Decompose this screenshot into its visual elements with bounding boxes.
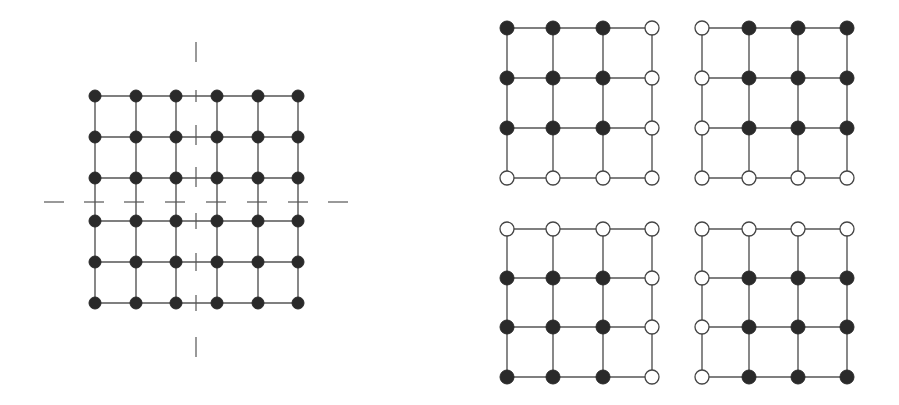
lattice-site-filled xyxy=(170,297,182,309)
lattice-site-open xyxy=(791,171,805,185)
lattice-site-open xyxy=(645,71,659,85)
lattice-site-open xyxy=(840,222,854,236)
lattice-site-open xyxy=(500,222,514,236)
lattice-site-filled xyxy=(791,370,805,384)
lattice-site-open xyxy=(546,222,560,236)
lattice-site-filled xyxy=(840,320,854,334)
lattice-site-filled xyxy=(791,121,805,135)
lattice-site-filled xyxy=(500,320,514,334)
lattice-site-open xyxy=(645,171,659,185)
lattice-site-filled xyxy=(130,215,142,227)
lattice-site-filled xyxy=(791,21,805,35)
sub-lattice-top-left xyxy=(500,21,659,185)
lattice-site-filled xyxy=(89,297,101,309)
lattice-site-filled xyxy=(252,90,264,102)
lattice-site-filled xyxy=(252,172,264,184)
lattice-site-filled xyxy=(596,320,610,334)
lattice-site-filled xyxy=(292,172,304,184)
lattice-site-open xyxy=(546,171,560,185)
lattice-site-open xyxy=(645,271,659,285)
lattice-site-filled xyxy=(596,370,610,384)
sub-lattice-bottom-right xyxy=(695,222,854,384)
sub-lattices-panel xyxy=(500,21,854,384)
lattice-site-filled xyxy=(500,271,514,285)
lattice-site-filled xyxy=(596,271,610,285)
lattice-site-open xyxy=(596,171,610,185)
lattice-site-filled xyxy=(211,297,223,309)
lattice-site-filled xyxy=(292,131,304,143)
lattice-site-open xyxy=(645,21,659,35)
lattice-site-open xyxy=(695,21,709,35)
lattice-site-filled xyxy=(130,256,142,268)
lattice-site-filled xyxy=(840,121,854,135)
lattice-site-filled xyxy=(170,172,182,184)
sub-lattice-bottom-left xyxy=(500,222,659,384)
lattice-site-filled xyxy=(596,71,610,85)
lattice-diagram xyxy=(0,0,899,405)
lattice-site-filled xyxy=(211,172,223,184)
lattice-site-filled xyxy=(89,256,101,268)
lattice-site-filled xyxy=(546,21,560,35)
lattice-site-filled xyxy=(840,370,854,384)
lattice-site-filled xyxy=(791,320,805,334)
lattice-site-open xyxy=(695,71,709,85)
lattice-site-filled xyxy=(840,271,854,285)
lattice-site-filled xyxy=(130,297,142,309)
lattice-site-filled xyxy=(89,131,101,143)
sub-lattice-top-right xyxy=(695,21,854,185)
lattice-site-filled xyxy=(130,131,142,143)
lattice-site-filled xyxy=(170,215,182,227)
lattice-site-filled xyxy=(546,320,560,334)
lattice-site-filled xyxy=(742,71,756,85)
lattice-site-open xyxy=(695,271,709,285)
lattice-site-open xyxy=(645,320,659,334)
lattice-site-open xyxy=(645,121,659,135)
lattice-site-filled xyxy=(596,121,610,135)
lattice-site-filled xyxy=(840,21,854,35)
lattice-site-filled xyxy=(211,131,223,143)
lattice-site-filled xyxy=(546,370,560,384)
lattice-site-filled xyxy=(170,90,182,102)
lattice-site-filled xyxy=(546,271,560,285)
lattice-site-filled xyxy=(89,215,101,227)
lattice-site-filled xyxy=(211,90,223,102)
lattice-site-filled xyxy=(742,21,756,35)
lattice-site-filled xyxy=(252,256,264,268)
lattice-site-filled xyxy=(546,71,560,85)
lattice-site-open xyxy=(596,222,610,236)
lattice-site-filled xyxy=(500,71,514,85)
lattice-site-open xyxy=(500,171,514,185)
lattice-site-filled xyxy=(742,121,756,135)
lattice-site-filled xyxy=(596,21,610,35)
lattice-site-filled xyxy=(130,90,142,102)
lattice-site-filled xyxy=(791,271,805,285)
lattice-site-filled xyxy=(292,215,304,227)
lattice-site-open xyxy=(695,320,709,334)
lattice-site-filled xyxy=(791,71,805,85)
lattice-site-filled xyxy=(170,131,182,143)
lattice-site-filled xyxy=(89,172,101,184)
lattice-site-filled xyxy=(840,71,854,85)
lattice-site-open xyxy=(742,222,756,236)
lattice-site-filled xyxy=(742,271,756,285)
lattice-site-filled xyxy=(292,297,304,309)
lattice-site-filled xyxy=(252,131,264,143)
lattice-site-filled xyxy=(292,90,304,102)
lattice-site-open xyxy=(695,171,709,185)
lattice-site-filled xyxy=(252,215,264,227)
lattice-site-filled xyxy=(742,370,756,384)
lattice-site-open xyxy=(695,121,709,135)
lattice-site-filled xyxy=(130,172,142,184)
lattice-site-open xyxy=(695,370,709,384)
lattice-site-filled xyxy=(252,297,264,309)
lattice-site-open xyxy=(742,171,756,185)
lattice-site-filled xyxy=(170,256,182,268)
lattice-site-filled xyxy=(211,215,223,227)
lattice-site-filled xyxy=(292,256,304,268)
lattice-site-open xyxy=(840,171,854,185)
lattice-site-open xyxy=(695,222,709,236)
lattice-site-filled xyxy=(211,256,223,268)
lattice-site-open xyxy=(645,370,659,384)
main-lattice xyxy=(89,90,304,309)
lattice-site-filled xyxy=(89,90,101,102)
